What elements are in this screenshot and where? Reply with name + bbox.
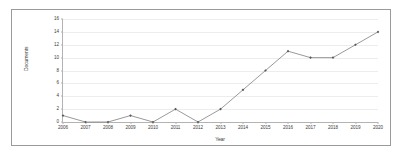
y-tick-label: 16	[54, 17, 59, 22]
x-tick-label: 2012	[193, 126, 203, 131]
y-tick-label: 4	[57, 94, 59, 99]
y-tick-label: 6	[57, 81, 59, 86]
y-tick-label: 12	[54, 42, 59, 47]
x-tick-mark	[355, 122, 356, 124]
x-tick-mark	[265, 122, 266, 124]
x-tick-label: 2015	[261, 126, 271, 131]
data-point-marker	[309, 56, 312, 59]
x-tick-label: 2008	[103, 126, 113, 131]
x-tick-label: 2017	[306, 126, 316, 131]
x-tick-mark	[130, 122, 131, 124]
y-tick-label: 8	[57, 68, 59, 73]
x-tick-mark	[333, 122, 334, 124]
y-tick-label: 14	[54, 30, 59, 35]
plot-area: 0246810121416 20062007200820092010201120…	[62, 19, 378, 123]
y-tick-label: 0	[57, 120, 59, 125]
x-tick-label: 2009	[126, 126, 136, 131]
y-axis-title: Documents	[23, 47, 29, 71]
x-tick-mark	[243, 122, 244, 124]
x-tick-label: 2020	[373, 126, 383, 131]
data-point-marker	[62, 114, 65, 117]
x-tick-mark	[288, 122, 289, 124]
chart-figure: Documents Year 0246810121416 20062007200…	[11, 9, 391, 146]
x-tick-mark	[63, 122, 64, 124]
x-axis-title: Year	[215, 136, 225, 142]
x-tick-label: 2014	[238, 126, 248, 131]
x-tick-mark	[310, 122, 311, 124]
x-tick-mark	[220, 122, 221, 124]
x-tick-label: 2018	[328, 126, 338, 131]
x-tick-label: 2019	[351, 126, 361, 131]
x-tick-label: 2016	[283, 126, 293, 131]
data-point-marker	[129, 114, 132, 117]
x-tick-label: 2007	[81, 126, 91, 131]
x-tick-mark	[378, 122, 379, 124]
x-tick-label: 2006	[58, 126, 68, 131]
x-tick-mark	[175, 122, 176, 124]
y-tick-label: 10	[54, 55, 59, 60]
y-tick-label: 2	[57, 107, 59, 112]
x-tick-label: 2013	[216, 126, 226, 131]
x-tick-label: 2010	[148, 126, 158, 131]
line-series	[63, 19, 378, 122]
x-tick-label: 2011	[171, 126, 180, 131]
